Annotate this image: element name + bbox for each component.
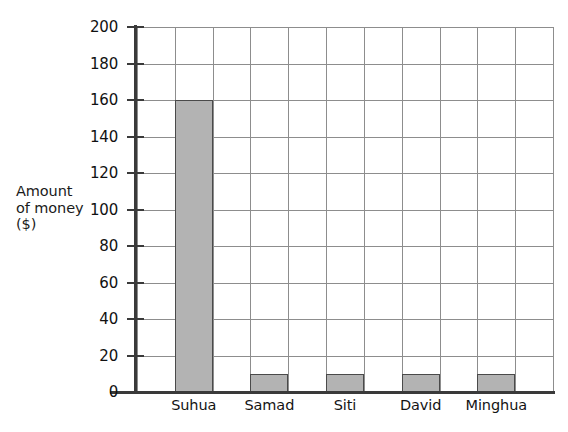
y-tick-mark — [127, 391, 144, 393]
y-tick-label: 40 — [72, 310, 118, 328]
y-tick-mark — [127, 136, 144, 138]
y-tick-mark — [127, 245, 144, 247]
y-tick-mark — [127, 172, 144, 174]
y-tick-label: 80 — [72, 237, 118, 255]
y-tick-mark — [127, 355, 144, 357]
y-tick-mark — [127, 209, 144, 211]
y-tick-label: 60 — [72, 274, 118, 292]
y-tick-label: 120 — [72, 164, 118, 182]
y-tick-mark — [127, 99, 144, 101]
y-tick-label: 100 — [72, 201, 118, 219]
y-tick-label: 160 — [72, 91, 118, 109]
bar-siti — [326, 374, 364, 392]
y-tick-label: 200 — [72, 18, 118, 36]
bar-chart: Amount of money ($) 02040608010012014016… — [0, 0, 568, 432]
y-axis-title-line-1: Amount — [16, 183, 108, 200]
x-axis-line — [110, 391, 555, 394]
bar-samad — [250, 374, 288, 392]
bar-david — [402, 374, 440, 392]
y-tick-label: 180 — [72, 55, 118, 73]
y-tick-label: 140 — [72, 128, 118, 146]
y-tick-mark — [127, 63, 144, 65]
bar-suhua — [175, 100, 213, 392]
y-tick-label: 0 — [72, 383, 118, 401]
bar-minghua — [477, 374, 515, 392]
x-category-label-minghua: Minghua — [451, 397, 541, 413]
y-tick-mark — [127, 282, 144, 284]
gridline-vertical — [553, 27, 554, 392]
y-tick-label: 20 — [72, 347, 118, 365]
bars-layer — [137, 27, 553, 392]
y-tick-mark — [127, 26, 144, 28]
y-tick-mark — [127, 318, 144, 320]
